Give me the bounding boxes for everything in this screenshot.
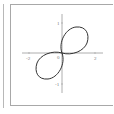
x-tick-label-neg2: -2 xyxy=(26,56,31,61)
chart-canvas: -2 2 0 1 -1 xyxy=(0,0,114,114)
x-tick-label-2: 2 xyxy=(94,56,97,61)
y-tick-label-1: 1 xyxy=(57,21,60,26)
origin-label: 0 xyxy=(57,55,60,60)
curve-loop-upper xyxy=(61,27,88,54)
y-tick-label-neg1: -1 xyxy=(55,82,60,87)
